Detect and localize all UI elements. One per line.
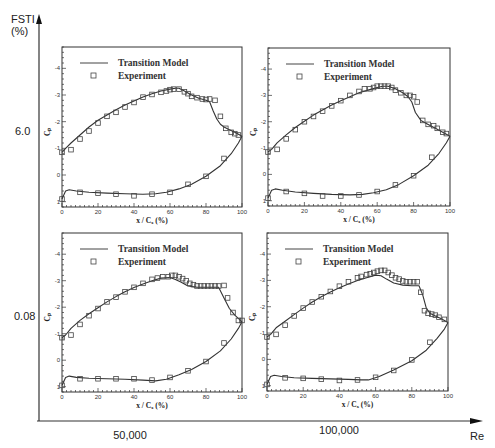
- y-tick-label: -4: [261, 66, 267, 72]
- x-tick-label: 0: [266, 208, 270, 214]
- legend-label-model: Transition Model: [118, 58, 189, 68]
- y-axis-label: Cₚ: [248, 312, 257, 321]
- y-tick-label: -4: [260, 251, 266, 257]
- x-tick-label: 100: [237, 394, 248, 400]
- cp-plot-bottom-right: 020406080100-4-3-2-101x / Cₓ (%)CₚTransi…: [248, 233, 454, 409]
- fsti-axis-label-line2: (%): [11, 25, 28, 37]
- x-tick-label: 0: [60, 209, 64, 215]
- x-tick-label: 20: [300, 393, 307, 399]
- y-tick-label: -3: [260, 277, 266, 283]
- cp-plot-top-left: 020406080100-4-3-2-101x / Cₓ (%)CₚTransi…: [43, 47, 248, 225]
- x-tick-label: 80: [203, 394, 210, 400]
- x-tick-label: 20: [95, 209, 102, 215]
- cp-plot-top-right: 020406080100-4-3-2-101x / Cₓ (%)CₚTransi…: [249, 48, 456, 224]
- legend-label-experiment: Experiment: [118, 257, 167, 267]
- y-tick-label: -2: [260, 304, 266, 310]
- x-tick-label: 100: [443, 393, 454, 399]
- x-tick-label: 0: [265, 393, 269, 399]
- y-axis-label: Cₚ: [43, 127, 52, 136]
- x-tick-label: 0: [60, 394, 64, 400]
- x-tick-label: 20: [95, 394, 102, 400]
- col-label-right: 100,000: [319, 424, 359, 436]
- x-tick-label: 80: [203, 209, 210, 215]
- y-tick-label: -2: [261, 119, 267, 125]
- y-tick-label: -4: [55, 251, 61, 257]
- legend-label-model: Transition Model: [118, 244, 189, 254]
- y-tick-label: 0: [263, 171, 267, 177]
- x-tick-label: 40: [131, 394, 138, 400]
- x-tick-label: 100: [237, 209, 248, 215]
- y-tick-label: -3: [55, 278, 61, 284]
- y-tick-label: 0: [57, 172, 61, 178]
- figure-canvas: FSTI (%) 6.0 0.08 50,000 100,000 Re 0204…: [0, 0, 495, 448]
- y-axis-label: Cₚ: [249, 127, 258, 136]
- legend-label-experiment: Experiment: [323, 257, 372, 267]
- panels-group: 020406080100-4-3-2-101x / Cₓ (%)CₚTransi…: [43, 47, 456, 410]
- legend-label-model: Transition Model: [323, 244, 394, 254]
- row-label-bottom: 0.08: [14, 310, 35, 322]
- legend-label-model: Transition Model: [324, 59, 395, 69]
- x-axis-label: x / Cₓ (%): [136, 216, 168, 225]
- fsti-axis-label-line1: FSTI: [11, 13, 35, 25]
- x-tick-label: 60: [167, 209, 174, 215]
- y-axis-label: Cₚ: [43, 312, 52, 321]
- y-tick-label: -2: [55, 119, 61, 125]
- x-tick-label: 100: [445, 208, 456, 214]
- x-tick-label: 20: [301, 208, 308, 214]
- x-tick-label: 40: [336, 393, 343, 399]
- y-tick-label: -3: [55, 92, 61, 98]
- fsti-axis-arrow-icon: [36, 14, 42, 24]
- col-label-left: 50,000: [113, 429, 147, 441]
- x-tick-label: 40: [131, 209, 138, 215]
- cp-plot-bottom-left: 020406080100-4-3-2-101x / Cₓ (%)CₚTransi…: [43, 233, 248, 410]
- legend-label-experiment: Experiment: [118, 71, 167, 81]
- re-axis-label: Re: [470, 430, 484, 442]
- y-tick-label: 0: [262, 356, 266, 362]
- x-tick-label: 60: [372, 393, 379, 399]
- x-tick-label: 60: [167, 394, 174, 400]
- y-tick-label: -2: [55, 304, 61, 310]
- x-tick-label: 60: [374, 208, 381, 214]
- legend-label-experiment: Experiment: [324, 72, 373, 82]
- x-tick-label: 40: [337, 208, 344, 214]
- x-axis-label: x / Cₓ (%): [136, 401, 168, 410]
- y-tick-label: -3: [261, 92, 267, 98]
- re-axis-arrow-icon: [470, 418, 483, 424]
- x-axis-label: x / Cₓ (%): [342, 400, 374, 409]
- y-tick-label: -4: [55, 65, 61, 71]
- y-tick-label: 0: [57, 357, 61, 363]
- x-tick-label: 80: [408, 393, 415, 399]
- x-axis-label: x / Cₓ (%): [343, 215, 375, 224]
- x-tick-label: 80: [410, 208, 417, 214]
- row-label-top: 6.0: [15, 125, 30, 137]
